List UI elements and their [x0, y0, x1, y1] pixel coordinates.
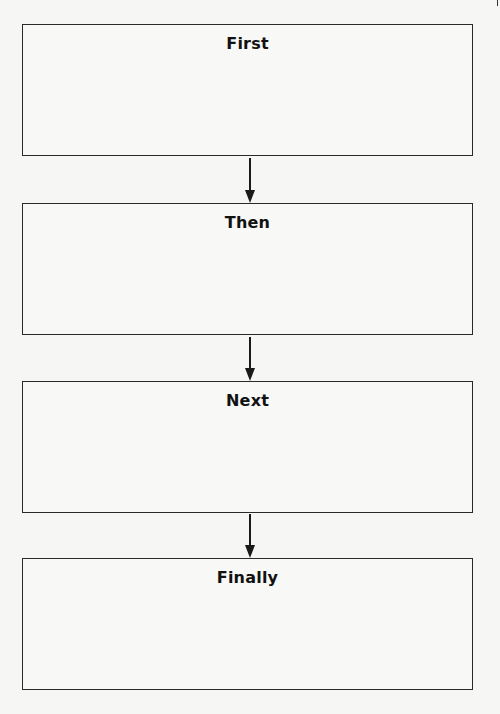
arrow-down-icon — [242, 158, 258, 204]
step-label: Finally — [23, 568, 472, 587]
step-label: First — [23, 34, 472, 53]
step-label: Then — [23, 213, 472, 232]
arrow-down-icon — [242, 337, 258, 382]
step-box-next: Next — [22, 381, 473, 513]
corner-mark — [497, 0, 498, 6]
step-box-then: Then — [22, 203, 473, 335]
arrow-down-icon — [242, 514, 258, 559]
step-box-finally: Finally — [22, 558, 473, 690]
step-label: Next — [23, 391, 472, 410]
step-box-first: First — [22, 24, 473, 156]
